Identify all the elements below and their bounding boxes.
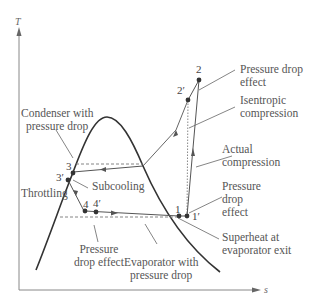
evaporator-label: Evaporator with pressure drop <box>124 256 198 282</box>
pressure-drop-effect-top-label: Pressure drop effect <box>240 63 303 89</box>
condenser-label: Condenser with pressure drop <box>21 107 94 133</box>
flow-arrow-icon <box>111 211 118 216</box>
flow-arrow-icon <box>191 148 195 156</box>
pressure-drop-effect-right-label: Pressure drop effect <box>222 180 261 219</box>
point-2p-dot <box>186 98 191 103</box>
t-axis <box>17 27 22 290</box>
leader-lines <box>56 70 235 244</box>
point-1p-label: 1′ <box>192 210 200 222</box>
superheat-label: Superheat at evaporator exit <box>222 231 291 257</box>
condenser-line-upper <box>143 100 188 166</box>
point-3-label: 3 <box>66 160 72 172</box>
point-2p-label: 2′ <box>177 84 185 96</box>
pressure-drop-effect-bottom-label: Pressure drop effect <box>74 243 124 269</box>
point-3p-label: 3′ <box>56 171 64 183</box>
point-2-dot <box>197 78 202 83</box>
s-axis-arrow-icon <box>252 288 261 293</box>
point-4-label: 4 <box>83 198 89 210</box>
isentropic-compression-line <box>187 100 188 216</box>
subcooling-label: Subcooling <box>92 180 144 193</box>
flow-arrow-icon <box>100 167 106 172</box>
point-4p-label: 4′ <box>93 197 101 209</box>
t-axis-label: T <box>15 16 21 27</box>
point-1p-dot <box>185 214 190 219</box>
condenser-line-lower <box>73 166 143 172</box>
isentropic-compression-label: Isentropic compression <box>240 94 298 120</box>
point-2-label: 2 <box>196 63 202 75</box>
point-4p-dot <box>94 210 99 215</box>
t-axis-arrow-icon <box>17 27 22 36</box>
s-axis <box>19 288 261 293</box>
point-3p-dot <box>66 178 71 183</box>
point-1-label: 1 <box>175 203 181 215</box>
s-axis-label: s <box>264 284 268 295</box>
evaporator-line <box>85 211 179 216</box>
throttling-label: Throttling <box>21 187 68 200</box>
actual-compression-label: Actual compression <box>222 143 280 169</box>
